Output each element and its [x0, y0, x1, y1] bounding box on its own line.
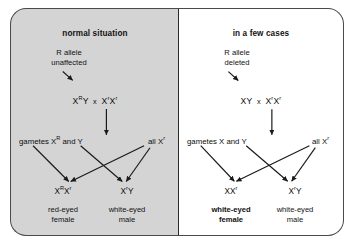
arrows-few-cases — [179, 9, 343, 235]
mother-genotype: XrXr — [102, 96, 118, 106]
father-y: Y — [83, 96, 89, 106]
offspring-phenotype-female-few-cases: white-eyed female — [200, 205, 262, 224]
phenotype-line-2: female — [52, 215, 75, 224]
offspring-phenotype-female-normal: red-eyed female — [32, 205, 94, 224]
gametes-maternal-sup: r — [163, 135, 165, 141]
offspring-phenotype-male-normal: white-eyed male — [96, 205, 158, 224]
phenotype-line-1: white-eyed — [277, 205, 314, 214]
father-y: Y — [247, 96, 253, 106]
annotation-line-2: deleted — [225, 58, 250, 67]
phenotype-line-1: red-eyed — [48, 205, 78, 214]
father-genotype: XY — [241, 96, 253, 106]
arrows-normal — [11, 9, 179, 235]
geno-char-2: Y — [128, 187, 133, 196]
gametes-maternal-normal: all Xr — [148, 137, 165, 146]
phenotype-line-1: white-eyed — [211, 205, 250, 214]
gametes-maternal-few-cases: all Xr — [312, 137, 329, 146]
genetics-cross-figure: normal situation R allele unaffected XRY… — [0, 0, 354, 245]
annotation-line-1: R allele — [56, 48, 81, 57]
mother-allele-sup-2: r — [115, 95, 117, 101]
father-genotype: XRY — [72, 96, 88, 106]
gametes-paternal-prefix: gametes X — [187, 137, 224, 146]
phenotype-line-2: female — [219, 215, 243, 224]
gametes-paternal-suffix: and Y — [60, 137, 82, 146]
geno-sup-2: r — [236, 185, 238, 191]
mother-genotype: XrXr — [265, 96, 281, 106]
cross-symbol: x — [91, 97, 99, 106]
offspring-genotype-female-normal: XRXr — [35, 187, 91, 196]
gametes-paternal-few-cases: gametes X and Y — [187, 137, 247, 146]
offspring-genotype-male-few-cases: XrY — [267, 187, 323, 196]
gametes-paternal-suffix: and Y — [224, 137, 246, 146]
parental-cross-few-cases: XY x XrXr — [179, 96, 343, 106]
gametes-paternal-prefix: gametes X — [19, 137, 56, 146]
annotation-line-1: R allele — [224, 48, 249, 57]
panel-few-cases-content: in a few cases R allele deleted XY x XrX… — [179, 9, 343, 235]
panel-normal-content: normal situation R allele unaffected XRY… — [11, 9, 179, 235]
geno-char-2: Y — [296, 187, 301, 196]
gametes-maternal-prefix: all X — [148, 137, 163, 146]
arrow-paternal-y-to-male — [81, 146, 123, 182]
phenotype-line-2: male — [287, 215, 303, 224]
arrow-maternal-x-to-male — [292, 148, 316, 182]
offspring-phenotype-male-few-cases: white-eyed male — [264, 205, 326, 224]
offspring-genotype-male-normal: XrY — [99, 187, 155, 196]
panel-few-cases-annotation: R allele deleted — [191, 48, 283, 67]
offspring-genotype-female-few-cases: XXr — [203, 187, 259, 196]
phenotype-line-2: male — [119, 215, 135, 224]
panel-few-cases-title: in a few cases — [179, 29, 343, 38]
panel-normal-title: normal situation — [11, 29, 179, 38]
parental-cross-normal: XRY x XrXr — [11, 96, 179, 106]
geno-sup-2: r — [70, 185, 72, 191]
arrow-maternal-x-to-female — [236, 146, 309, 182]
arrow-paternal-x-to-female — [201, 146, 235, 182]
panel-few-cases: in a few cases R allele deleted XY x XrX… — [178, 8, 344, 236]
annotation-pointer-arrow — [63, 71, 73, 80]
arrow-paternal-y-to-male — [246, 146, 287, 182]
phenotype-line-1: white-eyed — [109, 205, 146, 214]
cross-symbol: x — [255, 97, 263, 106]
gametes-paternal-normal: gametes XR and Y — [19, 137, 83, 146]
gametes-maternal-sup: r — [327, 135, 329, 141]
panel-normal-annotation: R allele unaffected — [23, 48, 115, 67]
annotation-pointer-arrow — [228, 72, 238, 81]
mother-allele-sup-2: r — [279, 95, 281, 101]
arrow-maternal-x-to-female — [71, 146, 144, 182]
annotation-line-2: unaffected — [51, 58, 86, 67]
panel-normal-situation: normal situation R allele unaffected XRY… — [10, 8, 179, 236]
arrow-paternal-x-to-female — [33, 146, 69, 182]
arrow-maternal-x-to-male — [126, 148, 150, 182]
gametes-maternal-prefix: all X — [312, 137, 327, 146]
